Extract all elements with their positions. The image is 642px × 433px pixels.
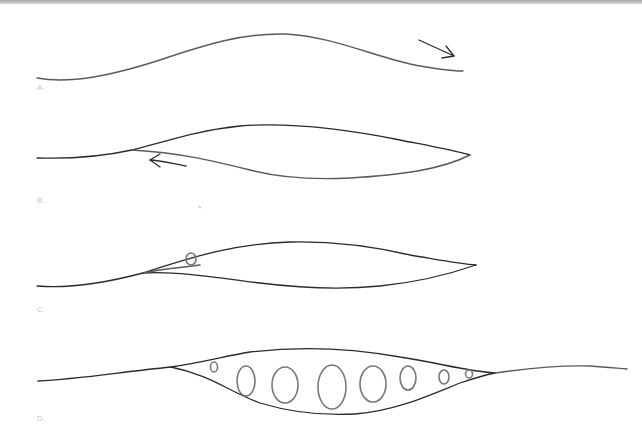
panel-c-lower-curve [143, 265, 476, 288]
panel-b-label: B. [37, 196, 45, 205]
loop-icon [439, 370, 449, 384]
loop-icon [318, 365, 346, 409]
arrow-left-icon [150, 154, 186, 167]
panel-d-lead-line [38, 367, 171, 381]
loop-icon [237, 366, 255, 396]
panel-a-line [37, 34, 463, 80]
arrow-right-icon [419, 40, 454, 58]
panel-d-upper-curve [171, 349, 495, 373]
panel-c [37, 242, 476, 288]
panel-a-label: A. [37, 83, 45, 92]
loops [211, 362, 473, 409]
panel-d-lower-curve [171, 367, 495, 415]
diagram-canvas [0, 0, 642, 433]
panel-b [37, 125, 470, 179]
loop-icon [272, 367, 298, 403]
panel-b-lower-curve [132, 150, 470, 179]
panel-d [38, 349, 627, 415]
panel-c-label: C. [37, 305, 45, 314]
panel-b-upper-curve [132, 125, 470, 155]
panel-c-lead-line [37, 273, 143, 287]
panel-d-label: D. [37, 414, 45, 423]
panel-c-inner-line [143, 265, 200, 273]
panel-a [37, 34, 463, 80]
loop-icon [466, 370, 473, 378]
panel-b-lead-line [37, 150, 132, 158]
loop-icon [400, 366, 416, 390]
panel-c-upper-curve [143, 242, 476, 273]
loop-icon [360, 366, 386, 402]
panel-d-tail-line [495, 366, 627, 373]
stray-mark [198, 206, 201, 208]
loop-icon [211, 362, 218, 372]
